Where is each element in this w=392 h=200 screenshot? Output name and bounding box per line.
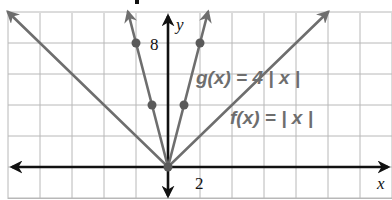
g-data-point [196, 39, 205, 48]
cropped-title-fragment [135, 0, 139, 4]
g-data-point [164, 163, 173, 172]
coordinate-plane: y x 8 2 g(x) = 4 | x | f(x) = | x | [0, 0, 392, 200]
g-data-point [180, 101, 189, 110]
g-data-point [148, 101, 157, 110]
y-axis-label: y [174, 15, 184, 34]
g-function-label: g(x) = 4 | x | [195, 67, 300, 88]
f-function-label: f(x) = | x | [230, 107, 313, 128]
x-axis-label: x [376, 174, 385, 193]
g-data-point [132, 39, 141, 48]
x-tick-label-2: 2 [195, 174, 204, 193]
y-tick-label-8: 8 [150, 35, 159, 54]
